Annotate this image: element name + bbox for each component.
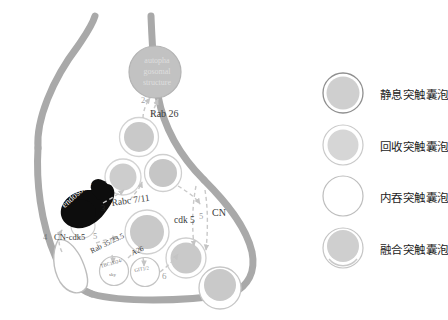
- diagram-canvas: autopha gosomal structure endosome 2 Rab…: [0, 0, 448, 320]
- legend-label-resting-vesicle: 静息突触囊泡: [380, 86, 448, 102]
- legend-label-fusing-vesicle: 融合突触囊泡: [380, 241, 448, 257]
- legend-icon-fusing-vesicle: [323, 228, 363, 268]
- legend-label-endocytic-vesicle: 内吞突触囊泡: [380, 189, 448, 205]
- legend-label-recycling-vesicle: 回收突触囊泡: [380, 138, 448, 154]
- legend-symbols: [0, 0, 448, 320]
- legend-icon-endocytic-vesicle: [323, 176, 363, 216]
- legend-icon-recycling-vesicle: [323, 125, 363, 165]
- legend-icon-resting-vesicle: [323, 73, 363, 113]
